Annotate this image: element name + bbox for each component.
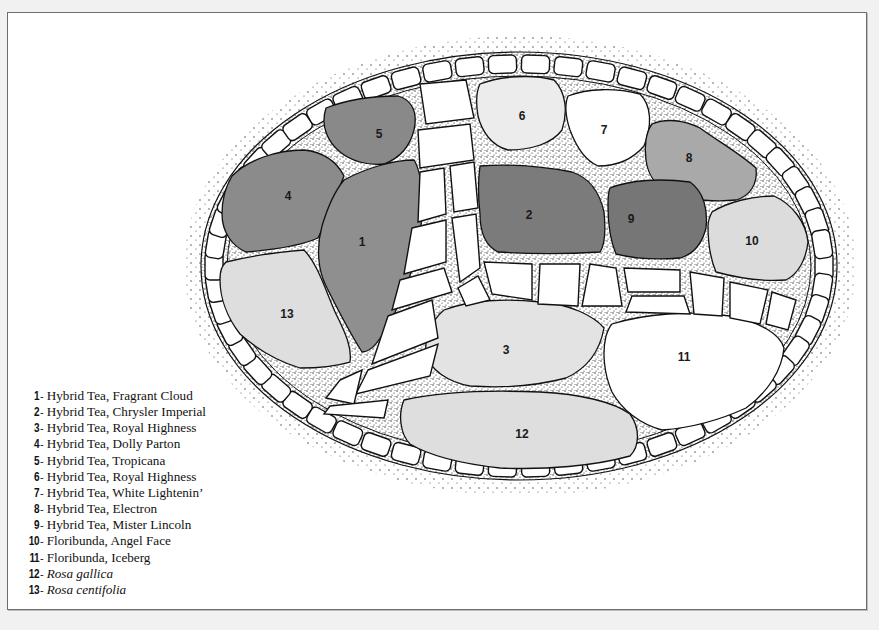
legend-text: Rosa centifolia	[47, 582, 126, 597]
legend-dash: -	[40, 552, 44, 564]
legend-item: 8-Hybrid Tea, Electron	[22, 501, 206, 517]
legend-number: 3	[25, 420, 39, 436]
legend-text: Hybrid Tea, Royal Highness	[47, 420, 197, 435]
bed-label-12: 12	[515, 427, 529, 441]
bed-label-11: 11	[678, 350, 691, 364]
legend-number: 7	[25, 485, 39, 501]
bed-label-1: 1	[359, 235, 366, 249]
legend-number: 12	[25, 566, 39, 582]
legend-text: Floribunda, Angel Face	[47, 533, 171, 548]
legend-text: Hybrid Tea, Mister Lincoln	[47, 517, 192, 532]
legend-item: 11-Floribunda, Iceberg	[22, 550, 206, 566]
legend-dash: -	[40, 455, 44, 467]
bed-label-8: 8	[686, 151, 693, 165]
legend-number: 11	[25, 550, 39, 566]
legend-number: 1	[25, 388, 39, 404]
bed-label-13: 13	[280, 307, 294, 321]
legend-item: 3-Hybrid Tea, Royal Highness	[22, 420, 206, 436]
legend-number: 10	[25, 533, 39, 549]
bed-label-4: 4	[285, 189, 292, 203]
legend-item: 7-Hybrid Tea, White Lightenin’	[22, 485, 206, 501]
plant-legend: 1-Hybrid Tea, Fragrant Cloud2-Hybrid Tea…	[22, 388, 206, 598]
legend-text: Hybrid Tea, White Lightenin’	[47, 485, 204, 500]
bed-label-2: 2	[526, 208, 533, 222]
edging-stone	[521, 55, 550, 74]
legend-number: 9	[25, 517, 39, 533]
legend-item: 10-Floribunda, Angel Face	[22, 533, 206, 549]
legend-number: 2	[25, 404, 39, 420]
bed-label-3: 3	[503, 343, 510, 357]
bed-9	[608, 180, 706, 259]
legend-dash: -	[40, 503, 44, 515]
legend-item: 5-Hybrid Tea, Tropicana	[22, 453, 206, 469]
legend-dash: -	[40, 535, 44, 547]
legend-number: 6	[25, 469, 39, 485]
legend-item: 2-Hybrid Tea, Chrysler Imperial	[22, 404, 206, 420]
legend-dash: -	[40, 568, 44, 580]
bed-label-6: 6	[519, 109, 526, 123]
legend-item: 9-Hybrid Tea, Mister Lincoln	[22, 517, 206, 533]
legend-text: Hybrid Tea, Royal Highness	[47, 469, 197, 484]
bed-label-10: 10	[745, 234, 759, 248]
edging-stone	[488, 55, 517, 74]
legend-number: 13	[25, 582, 39, 598]
legend-dash: -	[40, 471, 44, 483]
legend-dash: -	[40, 422, 44, 434]
legend-text: Floribunda, Iceberg	[47, 550, 151, 565]
legend-dash: -	[40, 487, 44, 499]
legend-dash: -	[40, 406, 44, 418]
edging-stone	[455, 56, 485, 77]
legend-number: 5	[25, 453, 39, 469]
edging-stone	[811, 229, 833, 260]
bed-label-7: 7	[601, 123, 608, 137]
bed-label-5: 5	[376, 127, 383, 141]
legend-text: Hybrid Tea, Electron	[47, 501, 158, 516]
edging-stone	[553, 56, 583, 77]
legend-text: Hybrid Tea, Dolly Parton	[47, 436, 181, 451]
legend-text: Hybrid Tea, Chrysler Imperial	[47, 404, 206, 419]
legend-text: Rosa gallica	[47, 566, 113, 581]
legend-text: Hybrid Tea, Tropicana	[47, 453, 166, 468]
legend-item: 13-Rosa centifolia	[22, 582, 206, 598]
legend-number: 4	[25, 436, 39, 452]
legend-text: Hybrid Tea, Fragrant Cloud	[47, 388, 193, 403]
legend-item: 1-Hybrid Tea, Fragrant Cloud	[22, 388, 206, 404]
legend-dash: -	[40, 584, 44, 596]
legend-dash: -	[40, 438, 44, 450]
legend-number: 8	[25, 501, 39, 517]
legend-item: 12-Rosa gallica	[22, 566, 206, 582]
bed-label-9: 9	[628, 212, 635, 226]
legend-dash: -	[40, 390, 44, 402]
legend-item: 4-Hybrid Tea, Dolly Parton	[22, 436, 206, 452]
legend-item: 6-Hybrid Tea, Royal Highness	[22, 469, 206, 485]
legend-dash: -	[40, 519, 44, 531]
